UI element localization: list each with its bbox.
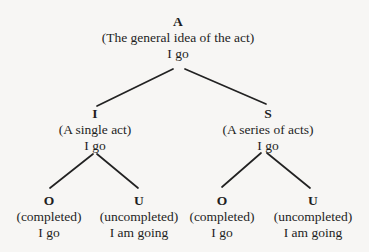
node-single-completed: O (completed) I go [16, 193, 81, 241]
edge-root-series [185, 69, 266, 104]
edge-series-uncompleted [267, 153, 310, 188]
node-description: (The general idea of the act) [102, 30, 255, 46]
node-key: O [189, 193, 254, 209]
node-description: (A single act) [59, 122, 132, 138]
node-description: (uncompleted) [100, 209, 179, 225]
node-key: U [100, 193, 179, 209]
node-example: I go [189, 225, 254, 241]
node-series-completed: O (completed) I go [189, 193, 254, 241]
edge-root-single [97, 69, 173, 106]
node-description: (uncompleted) [274, 209, 353, 225]
node-key: S [222, 106, 313, 122]
edge-single-uncompleted [97, 154, 138, 188]
node-key: O [16, 193, 81, 209]
node-description: (completed) [16, 209, 81, 225]
node-key: I [59, 106, 132, 122]
node-example: I go [16, 225, 81, 241]
aspect-tree-diagram: A (The general idea of the act) I go I (… [0, 0, 369, 252]
node-series-of-acts: S (A series of acts) I go [222, 106, 313, 154]
edge-series-completed [222, 153, 261, 187]
node-key: A [102, 14, 255, 30]
node-single-uncompleted: U (uncompleted) I am going [100, 193, 179, 241]
node-description: (A series of acts) [222, 122, 313, 138]
node-key: U [274, 193, 353, 209]
node-root: A (The general idea of the act) I go [102, 14, 255, 62]
node-example: I go [59, 138, 132, 154]
node-example: I go [102, 46, 255, 62]
edge-single-completed [50, 154, 93, 188]
node-description: (completed) [189, 209, 254, 225]
node-example: I go [222, 138, 313, 154]
node-single-act: I (A single act) I go [59, 106, 132, 154]
node-series-uncompleted: U (uncompleted) I am going [274, 193, 353, 241]
node-example: I am going [100, 225, 179, 241]
node-example: I am going [274, 225, 353, 241]
